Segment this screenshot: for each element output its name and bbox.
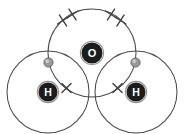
hydrogen-right-atom-label: H [132, 86, 140, 98]
electron-cross-lone-pair-1b [67, 9, 78, 20]
hydrogen-right-atom: H [125, 81, 146, 102]
electron-cross-bond-left [62, 83, 71, 92]
oxygen-atom-label: O [88, 47, 97, 59]
electron-dot-right-highlight [132, 59, 136, 63]
electron-cross-bond-right [113, 83, 122, 92]
electron-cross-lone-pair-2a [106, 9, 117, 20]
oxygen-atom: O [80, 41, 103, 64]
electron-dot-left-highlight [45, 59, 49, 63]
bonding-electron-dot-left [44, 58, 53, 67]
hydrogen-left-atom-label: H [44, 86, 52, 98]
dot-and-cross-diagram: Water molecule dot-and-cross diagram O H… [0, 0, 185, 134]
water-molecule-svg: Water molecule dot-and-cross diagram O H… [0, 0, 185, 134]
bonding-electron-dot-right [131, 58, 140, 67]
hydrogen-left-atom: H [37, 81, 58, 102]
